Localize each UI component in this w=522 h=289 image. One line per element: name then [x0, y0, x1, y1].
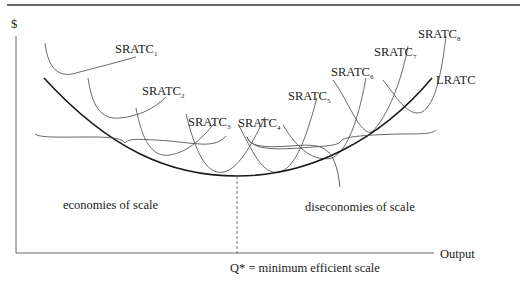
diseconomies-brace-right: [247, 130, 436, 149]
sratc-7-label: SRATC7: [374, 45, 417, 61]
diseconomies-brace: [247, 137, 340, 187]
sratc-5-curve: [238, 98, 317, 172]
y-axis-label: $: [11, 17, 17, 31]
sratc-3-label: SRATC3: [188, 115, 231, 131]
sratc-1-label: SRATC1: [115, 42, 158, 58]
sratc-labels: SRATC1 SRATC2 SRATC3 SRATC4 SRATC5 SRATC…: [115, 27, 461, 132]
sratc-2-label: SRATC2: [142, 84, 185, 100]
cost-curves-diagram: $ Output LRATC SRATC1 SRATC2 SRATC3 SRAT…: [0, 0, 522, 289]
economies-brace: [35, 134, 226, 144]
x-axis-label: Output: [440, 247, 475, 261]
diseconomies-of-scale-label: diseconomies of scale: [305, 200, 415, 214]
lratc-label: LRATC: [436, 73, 476, 87]
sratc-6-label: SRATC6: [331, 65, 374, 81]
min-efficient-scale-label: Q* = minimum efficient scale: [230, 261, 380, 275]
sratc-4-label: SRATC4: [238, 116, 281, 132]
economies-of-scale-label: economies of scale: [63, 198, 159, 212]
sratc-5-label: SRATC5: [288, 89, 331, 105]
sratc-8-label: SRATC8: [418, 27, 461, 43]
